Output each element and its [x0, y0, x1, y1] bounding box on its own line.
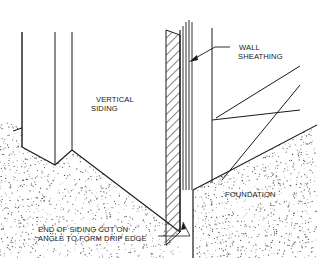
stipple-dot	[136, 146, 137, 147]
stipple-dot	[34, 181, 35, 182]
stipple-dot	[44, 176, 45, 177]
stipple-dot	[95, 215, 96, 216]
stipple-dot	[296, 177, 297, 178]
stipple-dot	[148, 229, 149, 230]
stipple-dot	[90, 199, 91, 200]
stipple-dot	[145, 207, 146, 208]
stipple-dot	[279, 220, 280, 221]
stipple-dot	[260, 208, 261, 209]
stipple-dot	[159, 256, 160, 257]
stipple-dot	[259, 176, 260, 177]
stipple-dot	[33, 138, 34, 139]
stipple-dot	[85, 169, 86, 170]
stipple-dot	[287, 167, 288, 168]
stipple-dot	[83, 248, 84, 249]
stipple-dot	[149, 231, 150, 232]
stipple-dot	[242, 207, 243, 208]
stipple-dot	[33, 244, 34, 245]
stipple-dot	[100, 146, 101, 147]
stipple-dot	[9, 249, 10, 250]
stipple-dot	[79, 179, 80, 180]
stipple-dot	[33, 191, 34, 192]
stipple-dot	[146, 247, 147, 248]
stipple-dot	[36, 158, 37, 159]
stipple-dot	[7, 120, 8, 121]
stipple-dot	[216, 225, 217, 226]
stipple-dot	[232, 211, 233, 212]
stipple-dot	[96, 176, 97, 177]
stipple-dot	[218, 222, 219, 223]
stipple-dot	[205, 197, 206, 198]
stipple-dot	[45, 221, 46, 222]
stipple-dot	[109, 184, 110, 185]
stipple-dot	[208, 161, 209, 162]
stipple-dot	[314, 191, 315, 192]
stipple-dot	[65, 195, 66, 196]
stipple-dot	[109, 190, 110, 191]
stipple-dot	[284, 168, 285, 169]
stipple-dot	[310, 202, 311, 203]
stipple-dot	[47, 141, 48, 142]
stipple-dot	[218, 177, 219, 178]
stipple-dot	[219, 181, 220, 182]
stipple-dot	[24, 219, 25, 220]
stipple-dot	[201, 254, 202, 255]
stipple-dot	[229, 235, 230, 236]
stipple-dot	[197, 190, 198, 191]
stipple-dot	[301, 139, 302, 140]
stipple-dot	[161, 145, 162, 146]
stipple-dot	[28, 144, 29, 145]
stipple-dot	[245, 209, 246, 210]
stipple-dot	[256, 255, 257, 256]
stipple-dot	[307, 202, 308, 203]
stipple-dot	[35, 236, 36, 237]
stipple-dot	[309, 218, 310, 219]
stipple-dot	[214, 122, 215, 123]
stipple-dot	[67, 254, 68, 255]
stipple-dot	[117, 143, 118, 144]
stipple-dot	[86, 191, 87, 192]
stipple-dot	[266, 137, 267, 138]
stipple-dot	[1, 124, 2, 125]
stipple-dot	[105, 210, 106, 211]
stipple-dot	[215, 250, 216, 251]
stipple-dot	[75, 223, 76, 224]
stipple-dot	[287, 233, 288, 234]
stipple-dot	[96, 193, 97, 194]
stipple-dot	[220, 184, 221, 185]
stipple-dot	[162, 185, 163, 186]
stipple-dot	[71, 190, 72, 191]
stipple-dot	[35, 164, 36, 165]
stipple-dot	[38, 124, 39, 125]
stipple-dot	[127, 188, 128, 189]
stipple-dot	[241, 253, 242, 254]
stipple-dot	[304, 144, 305, 145]
stipple-dot	[221, 137, 222, 138]
stipple-dot	[246, 248, 247, 249]
stipple-dot	[209, 125, 210, 126]
stipple-dot	[46, 219, 47, 220]
stipple-dot	[295, 241, 296, 242]
stipple-dot	[221, 248, 222, 249]
stipple-dot	[309, 157, 310, 158]
stipple-dot	[87, 179, 88, 180]
stipple-dot	[254, 186, 255, 187]
stipple-dot	[17, 167, 18, 168]
stipple-dot	[259, 145, 260, 146]
stipple-dot	[281, 189, 282, 190]
stipple-dot	[144, 183, 145, 184]
stipple-dot	[28, 199, 29, 200]
stipple-dot	[311, 170, 312, 171]
stipple-dot	[0, 162, 1, 163]
stipple-dot	[47, 214, 48, 215]
stipple-dot	[90, 139, 91, 140]
stipple-dot	[197, 205, 198, 206]
stipple-dot	[86, 187, 87, 188]
stipple-dot	[15, 172, 16, 173]
stipple-dot	[18, 252, 19, 253]
stipple-dot	[255, 227, 256, 228]
stipple-dot	[281, 236, 282, 237]
stipple-dot	[230, 133, 231, 134]
stipple-dot	[208, 137, 209, 138]
stipple-dot	[216, 163, 217, 164]
